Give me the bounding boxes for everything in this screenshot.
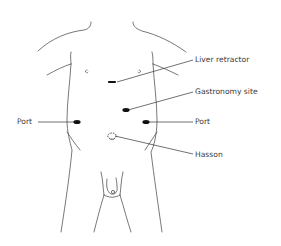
leader-lines: [38, 60, 193, 154]
gastronomy-site-marker: [122, 108, 129, 112]
hasson-leader: [115, 136, 193, 154]
left-chest-line: [47, 64, 71, 75]
label-port-left: Port: [17, 118, 32, 126]
right-inner-leg: [120, 195, 131, 232]
left-torso-side: [61, 64, 72, 232]
left-inner-leg: [94, 195, 104, 232]
markers: [73, 81, 149, 140]
liver-retractor-marker: [108, 81, 116, 83]
label-gastronomy-site: Gastronomy site: [195, 88, 258, 96]
groin-left: [101, 172, 104, 195]
groin-base: [104, 195, 120, 197]
left-nipple: [85, 70, 88, 73]
right-nipple: [138, 70, 141, 73]
label-liver-retractor: Liver retractor: [195, 56, 249, 64]
left-shoulder: [38, 22, 91, 51]
left-hip-crease: [67, 132, 80, 150]
body-outline: [38, 22, 186, 232]
port-left-marker: [73, 120, 80, 124]
right-torso-side: [151, 64, 162, 232]
gastronomy-leader: [128, 92, 193, 110]
groin-right: [120, 172, 123, 195]
label-port-right: Port: [195, 118, 210, 126]
genital: [107, 178, 118, 194]
liver-retractor-leader: [117, 60, 193, 82]
right-rib-line: [152, 52, 153, 64]
body-diagram: [0, 0, 281, 246]
label-hasson: Hasson: [195, 151, 223, 159]
genital-tip: [111, 190, 114, 193]
hasson-marker: [108, 133, 116, 139]
port-right-marker: [142, 120, 149, 124]
right-shoulder: [133, 22, 186, 52]
